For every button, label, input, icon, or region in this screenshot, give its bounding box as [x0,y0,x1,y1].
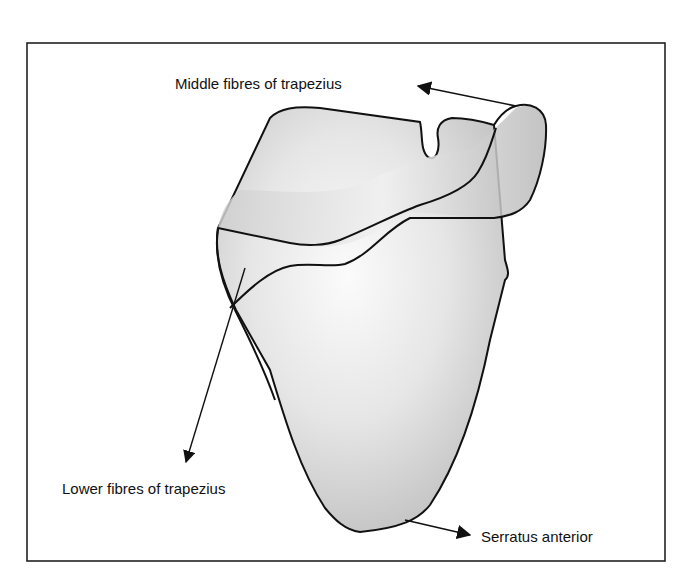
label-lower-fibres-trapezius: Lower fibres of trapezius [62,480,225,497]
arrow-middle-trapezius [418,86,516,106]
label-serratus-anterior: Serratus anterior [481,528,593,545]
label-middle-fibres-trapezius: Middle fibres of trapezius [175,75,342,92]
scapula-diagram: Middle fibres of trapezius Lower fibres … [0,0,684,581]
arrow-lower-trapezius [186,268,245,462]
arrow-serratus-anterior [405,520,470,535]
